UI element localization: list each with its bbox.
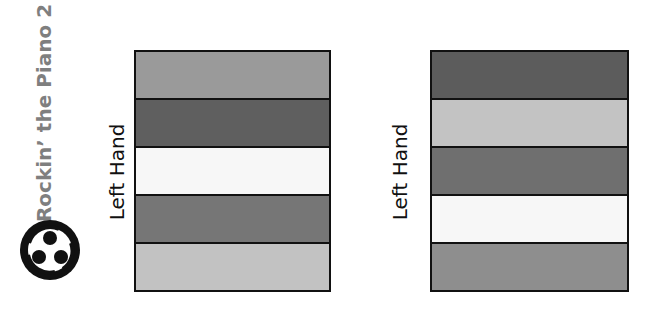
band-1	[432, 52, 627, 100]
band-2	[136, 100, 329, 148]
band-5	[432, 244, 627, 290]
logo-icon	[19, 219, 81, 281]
band-3	[432, 148, 627, 196]
band-2	[432, 100, 627, 148]
band-4	[432, 196, 627, 244]
left-hand-label-2: Left Hand	[388, 124, 412, 221]
band-4	[136, 196, 329, 244]
page-title: Rockin’ the Piano 2	[32, 4, 56, 222]
color-band-diagram-2	[430, 50, 629, 292]
left-hand-label-1: Left Hand	[105, 124, 129, 221]
color-band-diagram-1	[134, 50, 331, 292]
band-5	[136, 244, 329, 290]
band-1	[136, 52, 329, 100]
band-3	[136, 148, 329, 196]
